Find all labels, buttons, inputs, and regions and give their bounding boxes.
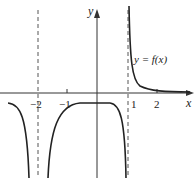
x-ticks — [67, 89, 157, 93]
x-axis-label: x — [185, 96, 192, 110]
tick-label-2: 2 — [154, 98, 160, 110]
curve-f — [8, 6, 190, 178]
curve-label: y = f(x) — [133, 53, 167, 66]
y-axis-label: y — [87, 4, 94, 18]
vertical-asymptotes — [38, 10, 128, 178]
tick-label-1: 1 — [131, 98, 137, 110]
tick-label-minus-2: −2 — [30, 98, 42, 110]
function-graph: −2 −1 1 2 x y y = f(x) — [0, 0, 196, 178]
tick-label-minus-1: −1 — [59, 98, 71, 110]
